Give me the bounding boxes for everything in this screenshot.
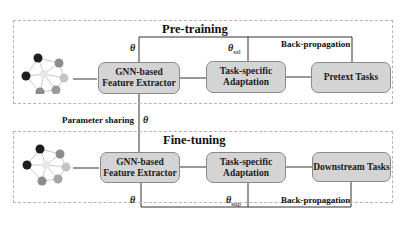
pretraining-gnn-feature-extractor: GNN-based Feature Extractor	[98, 62, 180, 94]
theta-pretraining-label: θ	[130, 42, 135, 53]
backprop-label-finetuning: Back-propagation	[281, 195, 350, 205]
pretext-tasks-box: Pretext Tasks	[311, 62, 391, 93]
adaptation-label-line2: Adaptation	[220, 168, 272, 179]
finetuning-gnn-feature-extractor: GNN-based Feature Extractor	[100, 152, 180, 183]
adaptation-label-line2: Adaptation	[220, 77, 272, 88]
parameter-sharing-label: Parameter sharing	[62, 115, 134, 125]
encoder-label-line2: Feature Extractor	[102, 78, 175, 89]
backprop-label-pretraining: Back-propagation	[281, 39, 350, 49]
theta-sup-label: θsup	[226, 194, 241, 208]
input-graph-icon	[18, 48, 74, 94]
adaptation-label-line1: Task-specific	[220, 157, 272, 168]
theta-sharing-label: θ	[143, 114, 148, 125]
finetuning-title: Fine-tuning	[163, 133, 226, 148]
adaptation-label-line1: Task-specific	[220, 66, 272, 77]
pretraining-title: Pre-training	[162, 22, 228, 37]
encoder-label-line1: GNN-based	[102, 67, 175, 78]
theta-ssl-label: θssl	[228, 42, 241, 56]
finetuning-task-specific-adaptation: Task-specific Adaptation	[206, 152, 286, 183]
encoder-label-line1: GNN-based	[103, 157, 176, 168]
pretraining-task-specific-adaptation: Task-specific Adaptation	[206, 61, 286, 93]
pretext-tasks-label: Pretext Tasks	[324, 72, 378, 83]
downstream-tasks-label: Downstream Tasks	[313, 162, 390, 173]
input-graph-icon	[18, 141, 74, 187]
ssl-pipeline-diagram: Pre-training GNN-based Feature Extractor…	[0, 0, 416, 225]
downstream-tasks-box: Downstream Tasks	[312, 152, 391, 182]
theta-finetuning-label: θ	[130, 194, 135, 205]
encoder-label-line2: Feature Extractor	[103, 168, 176, 179]
